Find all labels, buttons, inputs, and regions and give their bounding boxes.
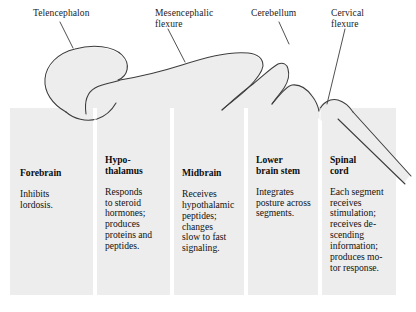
column-title-forebrain: Forebrain [20, 168, 90, 179]
leader-line-telencephalon [60, 22, 73, 48]
callout-label-cerebellum: Cerebellum [251, 8, 296, 19]
column-title-spinal-cord: Spinal cord [330, 155, 396, 177]
column-midbrain: Midbrain Receives hypothalamic peptides;… [176, 168, 246, 254]
column-forebrain: Forebrain Inhibits lordosis. [14, 168, 94, 211]
brain-regions-figure: Telencephalon Mesencephalic flexure Cere… [0, 0, 416, 312]
column-body-hypothalamus: Responds to steroid hormones; produces p… [105, 187, 167, 252]
callout-label-telencephalon: Telencephalon [33, 8, 90, 19]
column-body-forebrain: Inhibits lordosis. [20, 189, 90, 211]
column-body-lower-brain-stem: Integrates posture across segments. [256, 187, 316, 220]
callout-label-mesencephalic-flexure: Mesencephalic flexure [155, 8, 213, 30]
column-spinal-cord: Spinal cord Each segment receives stimul… [324, 155, 400, 274]
leader-line-cervical-flexure [327, 29, 345, 104]
column-title-lower-brain-stem: Lower brain stem [256, 155, 316, 177]
leader-line-mesencephalic-flexure [168, 29, 185, 62]
column-title-midbrain: Midbrain [182, 168, 242, 179]
callout-label-cervical-flexure: Cervical flexure [331, 8, 364, 30]
column-title-hypothalamus: Hypo- thalamus [105, 155, 167, 177]
column-lower-brain-stem: Lower brain stem Integrates posture acro… [250, 155, 320, 219]
column-body-midbrain: Receives hypothalamic peptides; changes … [182, 189, 242, 254]
column-hypothalamus: Hypo- thalamus Responds to steroid hormo… [99, 155, 171, 252]
column-body-spinal-cord: Each segment receives stimulation; recei… [330, 187, 396, 274]
leader-line-cerebellum [279, 22, 289, 44]
